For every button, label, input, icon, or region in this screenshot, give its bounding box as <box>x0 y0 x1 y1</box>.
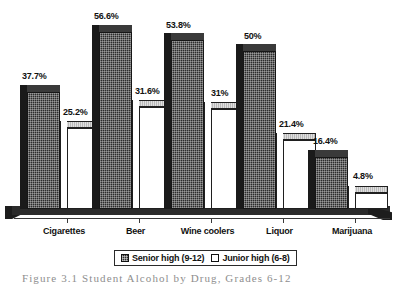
bar-side-face <box>92 25 99 209</box>
value-label-junior-marijuana: 4.8% <box>353 171 373 181</box>
bar-senior-wine-coolers <box>171 33 204 209</box>
bar-side-face <box>132 100 139 209</box>
bar-front-face <box>243 51 276 209</box>
category-label-marijuana: Marijuana <box>312 226 392 236</box>
bar-junior-marijuana <box>355 186 388 209</box>
legend-label-junior-high: Junior high (6-8) <box>222 253 289 263</box>
white-swatch-icon <box>211 254 219 262</box>
dark-checkered-swatch-icon <box>121 254 129 262</box>
value-label-junior-liquor: 21.4% <box>279 119 304 129</box>
plot-area: 37.7% 25.2% 56.6% 31.6% 53.8% <box>0 0 405 226</box>
axis-tick <box>67 218 68 223</box>
value-label-senior-wine-coolers: 53.8% <box>166 20 191 30</box>
value-label-senior-marijuana: 16.4% <box>313 136 338 146</box>
value-label-senior-cigarettes: 37.7% <box>22 71 47 81</box>
legend-item-senior-high: Senior high (9-12) <box>121 253 204 263</box>
legend-label-senior-high: Senior high (9-12) <box>132 253 204 263</box>
bar-front-face <box>315 157 348 209</box>
axis-tick <box>355 218 356 223</box>
bar-side-face <box>204 102 211 209</box>
legend-item-junior-high: Junior high (6-8) <box>211 253 289 263</box>
bar-senior-beer <box>99 25 132 209</box>
bar-front-face <box>171 40 204 209</box>
bar-side-face <box>276 133 283 209</box>
bar-side-face <box>60 121 67 209</box>
x-axis-line <box>14 218 390 219</box>
category-label-beer: Beer <box>99 226 172 236</box>
bar-side-face <box>164 33 171 209</box>
category-label-cigarettes: Cigarettes <box>24 226 104 236</box>
chart-legend: Senior high (9-12) Junior high (6-8) <box>114 250 297 266</box>
axis-tick <box>283 218 284 223</box>
bar-front-face <box>99 32 132 209</box>
bar-senior-liquor <box>243 44 276 209</box>
bar-senior-cigarettes <box>27 85 60 209</box>
figure-caption: Figure 3.1 Student Alcohol by Drug, Grad… <box>22 272 292 284</box>
bar-side-face <box>20 85 27 209</box>
axis-tick <box>211 218 212 223</box>
value-label-junior-beer: 31.6% <box>135 86 160 96</box>
bar-side-face <box>236 44 243 209</box>
bar-side-face <box>308 150 315 209</box>
category-label-liquor: Liquor <box>243 226 316 236</box>
category-label-wine-coolers: Wine coolers <box>166 226 249 236</box>
value-label-senior-liquor: 50% <box>244 31 261 41</box>
axis-tick <box>139 218 140 223</box>
bar-front-face <box>355 193 388 209</box>
bar-senior-marijuana <box>315 150 348 209</box>
value-label-senior-beer: 56.6% <box>94 11 119 21</box>
bar-side-face <box>348 186 355 209</box>
bar-front-face <box>27 92 60 209</box>
value-label-junior-cigarettes: 25.2% <box>63 107 88 117</box>
value-label-junior-wine-coolers: 31% <box>211 88 228 98</box>
